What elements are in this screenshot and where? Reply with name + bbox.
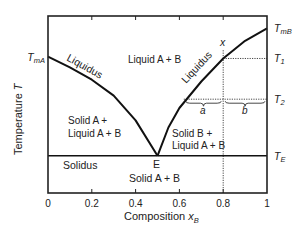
- eutectic-label: E: [153, 158, 160, 170]
- level-label-T2: T2: [274, 93, 285, 107]
- region-label-solid-a-2: Liquid A + B: [68, 128, 121, 139]
- x-tick-label: 0.6: [172, 198, 186, 209]
- level-label-T_E: TE: [274, 150, 286, 164]
- level-label-T_mB: TmB: [274, 22, 292, 36]
- liquidus-label-right: Liquidus: [179, 49, 214, 86]
- x-tick-label: 0.2: [85, 198, 99, 209]
- x-axis-label: Composition xB: [124, 210, 199, 225]
- phase-diagram: Liquid A + B Liquidus Liquidus Solid A +…: [0, 0, 303, 235]
- solidus-label: Solidus: [63, 159, 97, 171]
- region-label-liquid: Liquid A + B: [128, 54, 181, 65]
- lever-label-b: b: [242, 105, 248, 116]
- level-label-T1: T1: [274, 52, 285, 66]
- level-label-T_mA: TmA: [27, 51, 45, 65]
- x-tick-label: 1: [264, 198, 270, 209]
- y-axis-label: Temperature T: [12, 82, 24, 155]
- region-label-solid-b-2: Liquid A + B: [172, 140, 225, 151]
- x-tick-label: 0.4: [129, 198, 143, 209]
- x-tick-label: 0: [45, 198, 51, 209]
- region-label-solid-b-1: Solid B +: [172, 128, 212, 139]
- composition-x-label: x: [219, 36, 226, 48]
- x-tick-label: 0.8: [216, 198, 230, 209]
- region-label-solid-a-1: Solid A +: [68, 115, 107, 126]
- lever-label-a: a: [200, 105, 206, 116]
- region-label-solid: Solid A + B: [129, 172, 180, 184]
